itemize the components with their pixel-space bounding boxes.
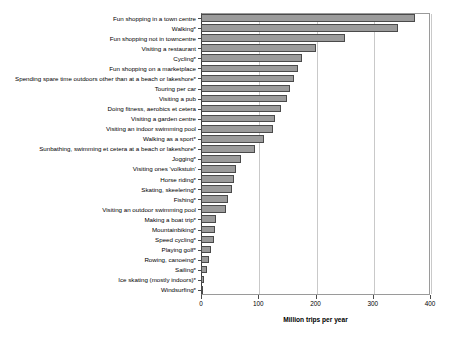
category-label-row: Horse riding* [0, 174, 199, 184]
category-label: Rowing, canoeing* [144, 256, 196, 263]
bar-row [201, 224, 430, 234]
category-label: Visiting a garden centre [131, 115, 196, 122]
category-tick [198, 99, 201, 100]
category-label: Visiting ones 'volkstuin' [133, 165, 196, 172]
category-label: Ice skating (mostly indoors)* [118, 276, 196, 283]
bar[interactable] [201, 14, 415, 22]
x-tick [373, 295, 374, 299]
category-label-row: Fun shopping on a marketplace [0, 63, 199, 73]
category-tick [198, 260, 201, 261]
bar[interactable] [201, 34, 345, 42]
bar[interactable] [201, 105, 281, 113]
bar[interactable] [201, 115, 275, 123]
category-tick [198, 89, 201, 90]
category-label-row: Spending spare time outdoors other than … [0, 73, 199, 83]
category-tick [198, 219, 201, 220]
category-tick [198, 290, 201, 291]
category-label-row: Ice skating (mostly indoors)* [0, 275, 199, 285]
bars-container [201, 13, 430, 295]
bar[interactable] [201, 266, 207, 274]
bar[interactable] [201, 185, 232, 193]
x-tick [258, 295, 259, 299]
x-tick-label: 100 [253, 300, 264, 307]
bar-row [201, 63, 430, 73]
bar-row [201, 174, 430, 184]
bar[interactable] [201, 85, 290, 93]
bar[interactable] [201, 155, 241, 163]
bar[interactable] [201, 205, 226, 213]
bar-row [201, 124, 430, 134]
category-tick [198, 250, 201, 251]
bar[interactable] [201, 276, 204, 284]
category-label-row: Visiting an outdoor swimming pool [0, 204, 199, 214]
bar-chart: Fun shopping in a town centreWalking*Fun… [0, 0, 461, 339]
bar[interactable] [201, 75, 294, 83]
category-tick [198, 68, 201, 69]
category-tick [198, 28, 201, 29]
bar[interactable] [201, 236, 214, 244]
bar-row [201, 43, 430, 53]
bar[interactable] [201, 256, 209, 264]
category-label-row: Jogging* [0, 154, 199, 164]
category-tick [198, 230, 201, 231]
category-label-row: Fun shopping not in towncentre [0, 33, 199, 43]
category-tick [198, 280, 201, 281]
category-label: Sailing* [175, 266, 196, 273]
bar[interactable] [201, 135, 264, 143]
bar-row [201, 214, 430, 224]
bar-row [201, 204, 430, 214]
x-tick-label: 200 [310, 300, 321, 307]
category-label: Visiting a pub [159, 95, 196, 102]
category-tick [198, 78, 201, 79]
bar-row [201, 13, 430, 23]
category-label: Horse riding* [160, 176, 196, 183]
bar[interactable] [201, 226, 215, 234]
category-label: Visiting a restaurant [141, 45, 196, 52]
bar-row [201, 134, 430, 144]
bar-row [201, 23, 430, 33]
bar-row [201, 285, 430, 295]
bar[interactable] [201, 125, 273, 133]
category-label: Mountainbiking* [152, 226, 196, 233]
category-tick [198, 209, 201, 210]
bar[interactable] [201, 195, 228, 203]
category-label: Fishing* [174, 196, 196, 203]
bar[interactable] [201, 24, 398, 32]
bar-row [201, 234, 430, 244]
category-label: Windsurfing* [161, 286, 196, 293]
category-tick [198, 139, 201, 140]
category-label: Fun shopping on a marketplace [109, 65, 196, 72]
bar-row [201, 73, 430, 83]
x-axis: 0100200300400 [201, 295, 430, 335]
bar[interactable] [201, 65, 298, 73]
category-label-row: Fishing* [0, 194, 199, 204]
category-label: Speed cycling* [155, 236, 196, 243]
category-tick [198, 109, 201, 110]
bar[interactable] [201, 145, 255, 153]
bar[interactable] [201, 54, 302, 62]
category-label: Visiting an outdoor swimming pool [102, 206, 196, 213]
category-tick [198, 169, 201, 170]
bar-row [201, 114, 430, 124]
category-label-row: Sunbathing, swimming et cetera at a beac… [0, 144, 199, 154]
bar-row [201, 154, 430, 164]
x-tick-label: 400 [425, 300, 436, 307]
bar[interactable] [201, 175, 234, 183]
bar[interactable] [201, 246, 211, 254]
bar-row [201, 104, 430, 114]
bar[interactable] [201, 95, 287, 103]
bar-row [201, 275, 430, 285]
category-label-row: Rowing, canoeing* [0, 255, 199, 265]
bar[interactable] [201, 44, 316, 52]
category-tick [198, 149, 201, 150]
bar[interactable] [201, 165, 236, 173]
category-label-row: Fun shopping in a town centre [0, 13, 199, 23]
bar-row [201, 184, 430, 194]
x-tick-label: 0 [199, 300, 203, 307]
category-label: Fun shopping in a town centre [113, 15, 196, 22]
bar[interactable] [201, 286, 203, 294]
category-tick [198, 179, 201, 180]
x-axis-title: Million trips per year [201, 316, 430, 323]
category-tick [198, 129, 201, 130]
bar[interactable] [201, 215, 216, 223]
